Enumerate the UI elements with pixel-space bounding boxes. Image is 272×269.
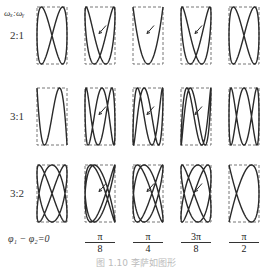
lissajous-curve [37, 7, 67, 64]
lissajous-cell [181, 165, 211, 222]
lissajous-curve [181, 7, 211, 64]
lissajous-cell [229, 88, 259, 145]
phase-denominator: 4 [133, 243, 163, 254]
bounding-box [181, 165, 211, 222]
lissajous-cell [229, 165, 259, 222]
phase-numerator: π [133, 231, 163, 243]
lissajous-cell [37, 165, 67, 222]
bounding-box [181, 88, 211, 145]
phase-numerator: π [229, 231, 259, 243]
row-label-2-1: 2:1 [10, 29, 24, 41]
direction-arrow-icon [99, 107, 106, 115]
phase-numerator: 3π [181, 231, 211, 243]
phase-denominator: 8 [181, 243, 211, 254]
phase-label-4: π2 [229, 231, 259, 254]
lissajous-cell [133, 88, 163, 145]
lissajous-curve [85, 165, 115, 222]
lissajous-curve [229, 7, 259, 64]
phase-denominator: 2 [229, 243, 259, 254]
lissajous-cell [133, 165, 163, 222]
figure-caption: 图 1.10 李萨如图形 [0, 256, 272, 269]
lissajous-curve [85, 88, 115, 145]
lissajous-curve [37, 165, 67, 222]
row-label-3-1: 3:1 [10, 110, 24, 122]
lissajous-cell [229, 7, 259, 64]
lissajous-curve [37, 88, 67, 145]
lissajous-cell [133, 7, 163, 64]
lissajous-cell [181, 88, 211, 145]
lissajous-cell [85, 88, 115, 145]
direction-arrow-icon [195, 26, 202, 34]
phase-denominator: 8 [85, 243, 115, 254]
lissajous-curve [133, 7, 163, 64]
lissajous-cell [85, 165, 115, 222]
bounding-box [85, 88, 115, 145]
lissajous-cell [85, 7, 115, 64]
row-label-3-2: 3:2 [10, 187, 24, 199]
lissajous-curve [133, 88, 163, 145]
lissajous-curve [133, 165, 163, 222]
lissajous-cell [181, 7, 211, 64]
phase-label-2: π4 [133, 231, 163, 254]
lissajous-curve [181, 165, 211, 222]
lissajous-curve [229, 88, 259, 145]
lissajous-cell [37, 7, 67, 64]
bounding-box [85, 165, 115, 222]
phase-zero-label: φ₁ − φ₂=0 [8, 233, 50, 244]
phase-label-1: π8 [85, 231, 115, 254]
phase-label-3: 3π8 [181, 231, 211, 254]
direction-arrow-icon [99, 26, 106, 34]
direction-arrow-icon [147, 26, 154, 34]
lissajous-cell [37, 88, 67, 145]
phase-numerator: π [85, 231, 115, 243]
lissajous-curve [85, 7, 115, 64]
lissajous-curve [181, 88, 211, 145]
lissajous-curve [229, 165, 259, 222]
